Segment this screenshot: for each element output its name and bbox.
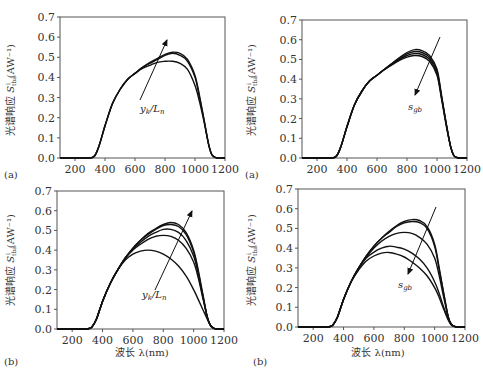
x-tick-label: 1200 [211,163,239,176]
x-tick-label: 600 [367,163,388,176]
series-curve5 [328,252,465,327]
y-tick-label: 0.6 [276,203,294,216]
x-tick-label: 200 [303,332,324,345]
y-tick-label: 0.5 [35,224,53,237]
y-tick-label: 0.1 [276,301,294,314]
trend-arrow-icon [140,40,167,100]
annotation-label: yk/Ln [139,103,165,116]
figure: 0.00.10.20.30.40.50.60.72004006008001000… [0,0,483,376]
x-tick-label: 400 [337,163,358,176]
y-tick-label: 0.3 [35,264,53,277]
x-tick-label: 200 [62,334,83,347]
series-curve3 [332,53,467,158]
y-tick-label: 0.5 [280,53,298,66]
y-tick-label: 0.6 [38,31,56,44]
panel-label: (b) [4,356,18,367]
plot-frame [302,20,467,158]
y-axis-label: 光谱响应 Stbai(AW⁻¹) [245,214,258,306]
y-tick-label: 0.6 [280,34,298,47]
panel-label: (a) [4,169,18,180]
chart-panel-tl: 0.00.10.20.30.40.50.60.72004006008001000… [4,11,239,180]
y-axis-label: 光谱响应 Stbai(AW⁻¹) [4,214,17,306]
y-tick-label: 0.5 [38,51,56,64]
x-tick-label: 1200 [210,334,238,347]
x-tick-label: 1200 [451,332,479,345]
y-tick-label: 0.2 [280,113,298,126]
x-tick-label: 800 [394,332,415,345]
series-curve2 [332,51,467,158]
trend-arrow-icon [408,207,436,274]
x-tick-label: 600 [363,332,384,345]
y-axis-label: 光谱响应 Stbai(AW⁻¹) [4,44,17,136]
panel-label: (b) [253,356,267,367]
chart-panel-bl: 0.00.10.20.30.40.50.60.72004006008001000… [4,185,238,367]
x-tick-label: 800 [155,163,176,176]
annotation-label: yk/Ln [141,289,167,302]
series-curve3 [87,229,224,329]
y-tick-label: 0.3 [280,93,298,106]
x-tick-label: 600 [125,163,146,176]
y-tick-label: 0.2 [38,112,56,125]
y-tick-label: 0.0 [276,321,294,334]
y-tick-label: 0.0 [38,152,56,165]
x-tick-label: 1000 [180,334,208,347]
x-axis-label: 波长 λ(nm) [351,346,404,358]
y-tick-label: 0.1 [280,132,298,145]
plot-frame [60,17,225,158]
y-tick-label: 0.7 [38,11,56,24]
y-tick-label: 0.7 [276,183,294,196]
series-curve4 [332,55,467,158]
x-tick-label: 600 [122,334,143,347]
y-tick-label: 0.3 [276,262,294,275]
x-tick-label: 200 [307,163,328,176]
x-tick-label: 1200 [453,163,481,176]
y-tick-label: 0.2 [35,284,53,297]
x-tick-label: 1000 [423,163,451,176]
annotation-label: sgb [398,279,413,292]
y-tick-label: 0.1 [35,303,53,316]
series-curve5 [87,223,224,330]
y-tick-label: 0.2 [276,282,294,295]
x-axis-label: 波长 λ(nm) [115,346,168,358]
y-tick-label: 0.5 [276,222,294,235]
x-tick-label: 1000 [181,163,209,176]
y-tick-label: 0.7 [35,185,53,198]
series-curve4 [87,224,224,329]
y-tick-label: 0.4 [35,244,53,257]
x-tick-label: 400 [95,163,116,176]
y-tick-label: 0.0 [35,323,53,336]
annotation-label: sgb [408,101,423,114]
panel-label: (a) [245,169,259,180]
plot-frame [57,191,224,329]
x-tick-label: 400 [92,334,113,347]
y-tick-label: 0.4 [276,242,294,255]
x-tick-label: 800 [153,334,174,347]
y-tick-label: 0.4 [38,71,56,84]
x-tick-label: 400 [333,332,354,345]
y-tick-label: 0.7 [280,14,298,27]
series-curve1 [332,49,467,158]
y-axis-label: 光谱响应 Stbai(AW⁻¹) [245,44,258,136]
x-tick-label: 1000 [421,332,449,345]
y-tick-label: 0.4 [280,73,298,86]
y-tick-label: 0.6 [35,205,53,218]
y-tick-label: 0.0 [280,152,298,165]
plot-frame [298,189,465,327]
series-curve2 [87,235,224,329]
chart-panel-br: 0.00.10.20.30.40.50.60.72004006008001000… [245,183,479,367]
x-tick-label: 200 [65,163,86,176]
x-tick-label: 800 [397,163,418,176]
y-tick-label: 0.1 [38,132,56,145]
chart-panel-tr: 0.00.10.20.30.40.50.60.72004006008001000… [245,14,481,180]
y-tick-label: 0.3 [38,92,56,105]
